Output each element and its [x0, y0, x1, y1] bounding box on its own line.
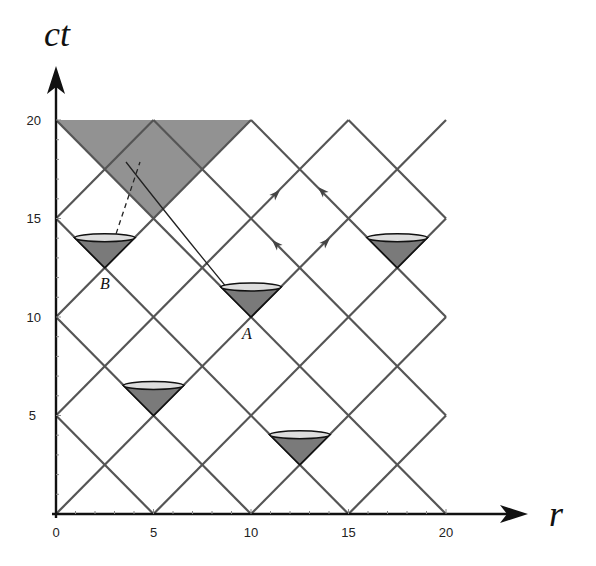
light-cone — [270, 431, 330, 465]
light-cone — [221, 283, 281, 317]
x-tick-10: 10 — [244, 525, 258, 540]
x-tick-20: 20 — [439, 525, 453, 540]
point-label-b: B — [100, 275, 110, 292]
shaded-region — [56, 120, 251, 219]
x-tick-5: 5 — [150, 525, 157, 540]
y-tick-10: 10 — [27, 310, 41, 325]
y-tick-5: 5 — [29, 408, 36, 423]
y-tick-20: 20 — [27, 113, 41, 128]
light-cone — [367, 234, 427, 268]
direction-arrows — [269, 184, 333, 250]
x-axis-label: r — [549, 494, 564, 534]
light-cone — [124, 382, 184, 416]
x-tick-15: 15 — [341, 525, 355, 540]
y-axis-label: ct — [44, 14, 71, 54]
light-cones — [75, 234, 428, 465]
y-tick-15: 15 — [27, 211, 41, 226]
x-tick-0: 0 — [52, 525, 59, 540]
spacetime-diagram: 0 5 10 15 20 5 10 15 20 ct r A B — [0, 0, 596, 566]
light-cone — [75, 234, 135, 268]
point-label-a: A — [241, 325, 252, 342]
